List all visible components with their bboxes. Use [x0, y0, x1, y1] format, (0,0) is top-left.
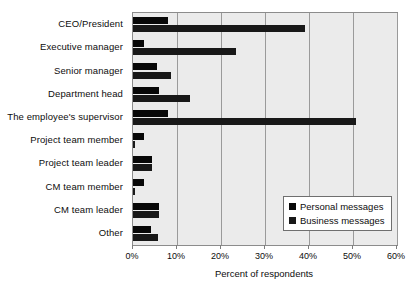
x-tick — [308, 245, 309, 249]
legend-label: Business messages — [300, 215, 384, 226]
bar-personal — [133, 63, 157, 70]
bar-personal — [133, 133, 144, 140]
category-label: CEO/President — [0, 12, 128, 35]
x-tick — [352, 245, 353, 249]
x-axis-title: Percent of respondents — [132, 268, 396, 279]
bar-business — [133, 95, 190, 102]
x-tick — [396, 245, 397, 249]
bar-personal — [133, 110, 168, 117]
category-label: Executive manager — [0, 35, 128, 58]
category-label: Senior manager — [0, 58, 128, 81]
legend-label: Personal messages — [300, 201, 383, 212]
bar-group — [133, 129, 397, 152]
bar-personal — [133, 40, 144, 47]
bar-chart: CEO/PresidentExecutive managerSenior man… — [0, 0, 419, 297]
x-tick-label: 40% — [299, 251, 317, 261]
category-label: CM team member — [0, 174, 128, 197]
x-tick — [264, 245, 265, 249]
category-label: CM team leader — [0, 198, 128, 221]
bar-business — [133, 234, 158, 241]
bar-personal — [133, 87, 159, 94]
bar-personal — [133, 156, 152, 163]
bar-group — [133, 152, 397, 175]
bar-business — [133, 188, 135, 195]
x-tick-label: 20% — [211, 251, 229, 261]
category-label: Project team member — [0, 128, 128, 151]
x-tick-label: 0% — [125, 251, 138, 261]
legend-swatch-icon — [289, 203, 296, 210]
x-tick-label: 60% — [387, 251, 405, 261]
category-label: Project team leader — [0, 151, 128, 174]
category-label: Department head — [0, 82, 128, 105]
x-tick — [132, 245, 133, 249]
legend-swatch-icon — [289, 217, 296, 224]
category-axis: CEO/PresidentExecutive managerSenior man… — [0, 12, 128, 244]
bar-group — [133, 106, 397, 129]
category-label: Other — [0, 221, 128, 244]
bar-personal — [133, 226, 151, 233]
bar-group — [133, 36, 397, 59]
bar-group — [133, 83, 397, 106]
bar-business — [133, 211, 159, 218]
bar-business — [133, 118, 356, 125]
x-tick — [220, 245, 221, 249]
legend-item: Personal messages — [289, 201, 384, 212]
x-tick-label: 10% — [167, 251, 185, 261]
bar-business — [133, 72, 171, 79]
chart-legend: Personal messagesBusiness messages — [283, 196, 392, 231]
x-tick-label: 30% — [255, 251, 273, 261]
bar-business — [133, 164, 152, 171]
bar-business — [133, 141, 135, 148]
x-tick — [176, 245, 177, 249]
bar-personal — [133, 203, 159, 210]
bar-group — [133, 59, 397, 82]
x-tick-label: 50% — [343, 251, 361, 261]
gridline — [397, 13, 398, 245]
bar-business — [133, 48, 236, 55]
bar-personal — [133, 179, 144, 186]
bar-personal — [133, 17, 168, 24]
bar-business — [133, 25, 305, 32]
category-label: The employee's supervisor — [0, 105, 128, 128]
bar-group — [133, 13, 397, 36]
legend-item: Business messages — [289, 215, 384, 226]
